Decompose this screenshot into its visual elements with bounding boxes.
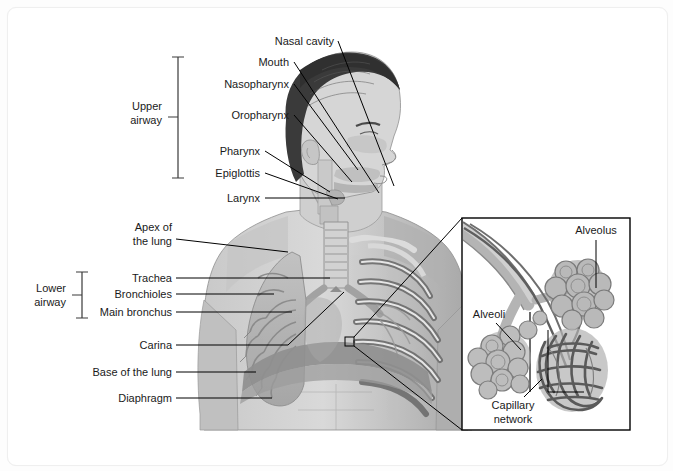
label-larynx: Larynx (227, 192, 261, 204)
label-nasal-cavity: Nasal cavity (275, 35, 335, 47)
label-epiglottis: Epiglottis (215, 167, 260, 179)
bracket-lower-airway: Lower airway (34, 272, 88, 318)
label-trachea: Trachea (132, 272, 173, 284)
label-diaphragm: Diaphragm (118, 392, 172, 404)
bracket-upper-label-line2: airway (130, 114, 162, 126)
label-capillary-network-line2: network (494, 413, 533, 425)
bracket-lower-label-line2: airway (34, 296, 66, 308)
bracket-upper-airway: Upper airway (130, 57, 184, 178)
label-capillary-network-line1: Capillary (492, 399, 535, 411)
label-apex-of-the-lung-line1: Apex of (135, 221, 173, 233)
label-base-of-the-lung: Base of the lung (92, 366, 172, 378)
respiratory-anatomy-figure: Upper airway Lower airway Nasal cavity M… (0, 0, 673, 471)
label-apex-of-the-lung-line2: the lung (133, 235, 172, 247)
label-pharynx: Pharynx (220, 145, 261, 157)
bracket-lower-label-line1: Lower (36, 282, 66, 294)
label-main-bronchus: Main bronchus (100, 306, 173, 318)
inset-panel: Alveolus Alveoli Capillary network (462, 218, 630, 430)
label-alveolus: Alveolus (575, 224, 617, 236)
capillary-network-illustration (536, 328, 608, 412)
label-mouth: Mouth (258, 56, 289, 68)
label-nasopharynx: Nasopharynx (224, 78, 289, 90)
label-alveoli: Alveoli (473, 308, 505, 320)
label-carina: Carina (140, 339, 173, 351)
bracket-upper-label-line1: Upper (132, 100, 162, 112)
label-bronchioles: Bronchioles (115, 288, 173, 300)
label-oropharynx: Oropharynx (232, 109, 290, 121)
page-root: Upper airway Lower airway Nasal cavity M… (0, 0, 673, 471)
